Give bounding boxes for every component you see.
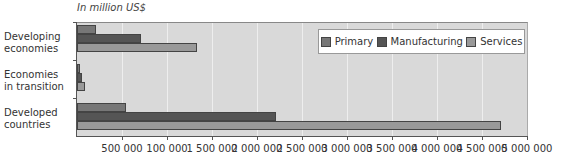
y-tick — [73, 60, 77, 61]
bar-developed-primary — [77, 103, 126, 112]
x-tick — [302, 136, 303, 140]
x-tick-label: 500 000 — [101, 143, 142, 154]
x-tick-label: 3 500 000 — [367, 143, 418, 154]
legend-item-services: Services — [466, 36, 522, 47]
legend: Primary Manufacturing Services — [318, 29, 525, 54]
bar-developing-primary — [77, 25, 96, 34]
legend-swatch-services — [466, 37, 476, 47]
x-tick-label: 4 000 000 — [412, 143, 463, 154]
x-tick-label: 2 000 000 — [232, 143, 283, 154]
category-label-line: countries — [4, 119, 58, 131]
x-tick — [437, 136, 438, 140]
x-tick — [122, 136, 123, 140]
legend-label: Services — [480, 36, 522, 47]
category-label-line: Developed — [4, 107, 58, 119]
bar-transition-primary — [77, 64, 80, 73]
x-tick — [527, 136, 528, 140]
x-tick-label: 100 000 — [146, 143, 187, 154]
x-tick — [347, 136, 348, 140]
x-tick — [257, 136, 258, 140]
legend-label: Manufacturing — [391, 36, 463, 47]
category-label-line: in transition — [4, 81, 64, 93]
x-tick — [392, 136, 393, 140]
x-tick — [482, 136, 483, 140]
bar-developed-services — [77, 121, 501, 130]
category-label-transition: Economies in transition — [4, 69, 64, 93]
legend-item-primary: Primary — [321, 36, 374, 47]
x-tick — [212, 136, 213, 140]
category-label-line: economies — [4, 43, 61, 55]
legend-item-manufacturing: Manufacturing — [377, 36, 463, 47]
x-tick-label: 5 000 000 — [502, 143, 553, 154]
x-tick-label: 4 500 000 — [457, 143, 508, 154]
legend-swatch-manufacturing — [377, 37, 387, 47]
x-tick-label: 2 500 000 — [277, 143, 328, 154]
unit-label: In million US$ — [77, 2, 146, 13]
x-tick-label: 3 000 000 — [322, 143, 373, 154]
gridline — [302, 23, 303, 137]
category-label-line: Developing — [4, 31, 61, 43]
y-tick — [73, 22, 77, 23]
y-tick — [73, 98, 77, 99]
legend-label: Primary — [335, 36, 374, 47]
bar-developed-manufacturing — [77, 112, 276, 121]
bar-developing-manufacturing — [77, 34, 141, 43]
bar-developing-services — [77, 43, 197, 52]
category-label-developing: Developing economies — [4, 31, 61, 55]
category-label-line: Economies — [4, 69, 64, 81]
category-label-developed: Developed countries — [4, 107, 58, 131]
y-axis — [76, 22, 77, 137]
x-tick-label: 1 500 000 — [187, 143, 238, 154]
bar-transition-services — [77, 82, 85, 91]
bar-transition-manufacturing — [77, 73, 82, 82]
x-tick — [167, 136, 168, 140]
legend-swatch-primary — [321, 37, 331, 47]
